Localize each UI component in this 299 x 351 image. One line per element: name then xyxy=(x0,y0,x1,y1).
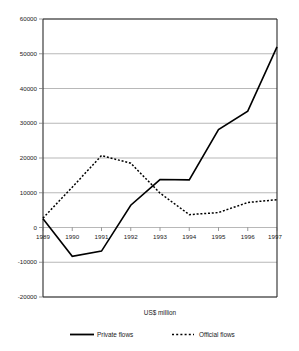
x-axis-label-1989: 1989 xyxy=(36,233,50,240)
data-series xyxy=(43,47,277,257)
y-axis-label-30000: 30000 xyxy=(20,119,38,126)
legend-label-private-flows: Private flows xyxy=(97,331,133,338)
y-axis-label-minus10000: -10000 xyxy=(18,258,38,265)
x-axis-title: US$ million xyxy=(144,309,177,316)
x-axis-label-1991: 1991 xyxy=(95,233,109,240)
y-axis-label-50000: 50000 xyxy=(20,50,38,57)
x-axis-label-1990: 1990 xyxy=(65,233,79,240)
y-axis-labels: 60000 50000 40000 30000 20000 10000 0 -1… xyxy=(18,15,38,300)
x-axis-label-1992: 1992 xyxy=(124,233,138,240)
x-axis-label-1995: 1995 xyxy=(212,233,226,240)
x-axis-label-1996: 1996 xyxy=(241,233,255,240)
chart-legend: Private flows Official flows xyxy=(70,331,235,338)
x-axis-label-1994: 1994 xyxy=(182,233,196,240)
y-axis-label-10000: 10000 xyxy=(20,189,38,196)
x-tickmarks xyxy=(43,228,277,232)
y-axis-label-20000: 20000 xyxy=(20,154,38,161)
y-axis-label-60000: 60000 xyxy=(20,15,38,22)
y-tickmarks xyxy=(39,19,43,297)
x-axis-label-1997: 1997 xyxy=(268,233,282,240)
y-axis-label-minus20000: -20000 xyxy=(18,293,38,300)
line-chart-figure: 60000 50000 40000 30000 20000 10000 0 -1… xyxy=(0,0,299,351)
y-axis-label-0: 0 xyxy=(34,224,38,231)
x-axis-labels: 1989 1990 1991 1992 1993 1994 1995 1996 … xyxy=(36,233,282,240)
series-line-official-flows xyxy=(43,156,277,219)
series-line-private-flows xyxy=(43,47,277,257)
y-axis-label-40000: 40000 xyxy=(20,85,38,92)
chart-canvas: 60000 50000 40000 30000 20000 10000 0 -1… xyxy=(0,0,299,351)
legend-label-official-flows: Official flows xyxy=(199,331,235,338)
x-axis-label-1993: 1993 xyxy=(153,233,167,240)
